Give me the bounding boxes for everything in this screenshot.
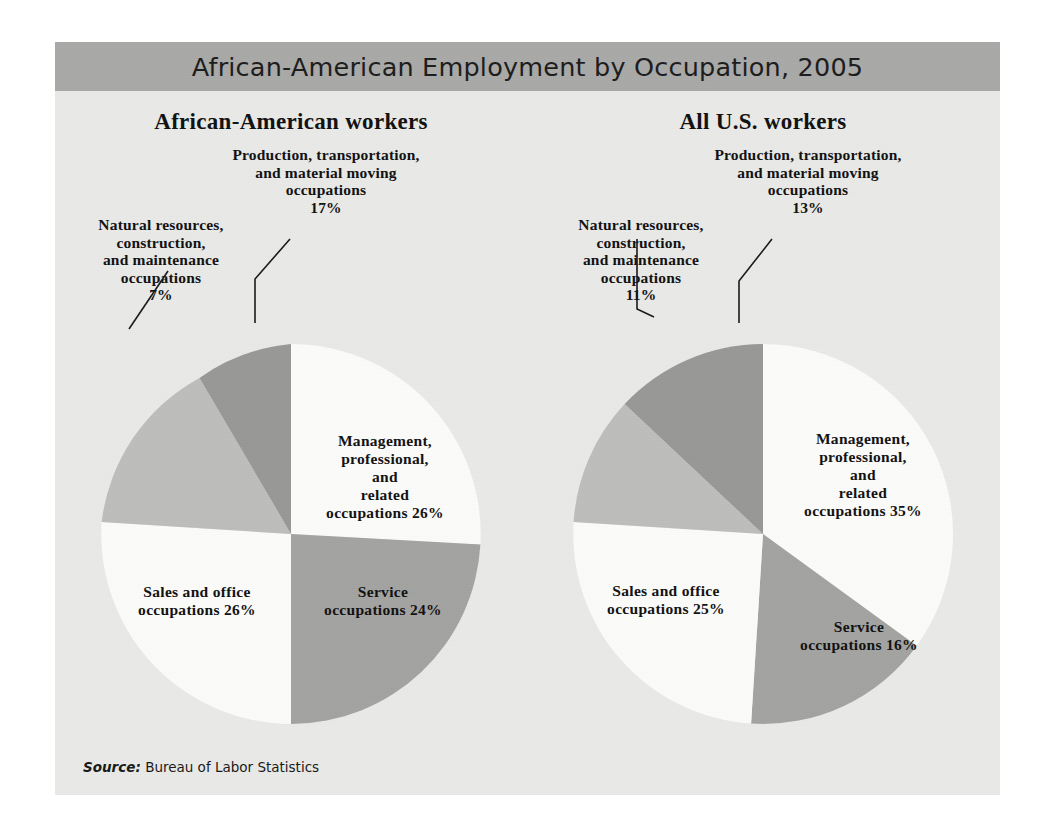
callout-line: occupations [286,181,367,198]
figure-title: African-American Employment by Occupatio… [192,52,864,82]
pie-slice-sales[interactable] [573,522,763,724]
pie-svg-left [91,334,491,734]
callout-line: construction, [116,234,205,251]
slice-label-line: related [361,486,409,503]
callout-line: and material moving [255,164,397,181]
source-note: Source: Bureau of Labor Statistics [83,759,319,775]
slice-label-line: professional, [341,450,429,467]
callout-line: and material moving [737,164,879,181]
slice-label-line: occupations [607,600,689,617]
slice-label-service-right: Service occupations 16% [775,618,943,654]
callout-percent: 7% [61,286,261,304]
figure-panel: African-American Employment by Occupatio… [55,42,1000,795]
slice-label-percent: 26% [412,504,444,521]
callout-line: occupations [601,269,682,286]
chart-all-us-workers: All U.S. workers Production, transportat… [527,91,999,795]
chart-heading-left: African-American workers [55,109,527,135]
callout-line: and maintenance [103,251,219,268]
pie-slice-sales[interactable] [101,522,291,724]
slice-label-service-left: Service occupations 24% [299,583,467,619]
pie-chart-left: Management, professional, and related oc… [91,334,491,734]
slice-label-line: Management, [816,430,910,447]
slice-label-line: occupations [138,601,220,618]
slice-label-line: Sales and office [143,583,250,600]
callout-production-right: Production, transportation, and material… [663,146,953,216]
callout-line: Production, transportation, [232,146,419,163]
slice-label-percent: 25% [693,600,725,617]
pie-chart-right: Management, professional, and related oc… [563,334,963,734]
slice-label-management-left: Management, professional, and related oc… [297,432,473,522]
slice-label-line: Sales and office [612,582,719,599]
slice-label-percent: 26% [224,601,256,618]
slice-label-line: Service [834,618,884,635]
slice-label-percent: 16% [886,636,918,653]
callout-line: Natural resources, [98,216,223,233]
slice-label-sales-left: Sales and office occupations 26% [107,583,287,619]
callout-production-left: Production, transportation, and material… [181,146,471,216]
slice-label-line: and [372,468,398,485]
callout-line: occupations [768,181,849,198]
callout-line: construction, [596,234,685,251]
slice-label-line: Management, [338,432,432,449]
chart-african-american-workers: African-American workers Production, tra… [55,91,527,795]
callout-line: Natural resources, [578,216,703,233]
source-label: Source: [83,759,141,775]
slice-label-line: occupations [804,502,886,519]
callout-line: Production, transportation, [714,146,901,163]
callout-line: occupations [121,269,202,286]
pie-slice-service[interactable] [291,534,480,724]
callout-natural-resources-right: Natural resources, construction, and mai… [541,216,741,304]
slice-label-percent: 35% [890,502,922,519]
figure-title-bar: African-American Employment by Occupatio… [55,42,1000,91]
callout-percent: 17% [181,199,471,217]
slice-label-sales-right: Sales and office occupations 25% [575,582,757,618]
slice-label-line: occupations [324,601,406,618]
chart-heading-right: All U.S. workers [527,109,999,135]
callout-line: and maintenance [583,251,699,268]
slice-label-percent: 24% [410,601,442,618]
slice-label-management-right: Management, professional, and related oc… [775,430,951,520]
slice-label-line: occupations [326,504,408,521]
slice-label-line: professional, [819,448,907,465]
slice-label-line: and [850,466,876,483]
pie-svg-right [563,334,963,734]
slice-label-line: occupations [800,636,882,653]
callout-percent: 11% [541,286,741,304]
slice-label-line: related [839,484,887,501]
callout-percent: 13% [663,199,953,217]
slice-label-line: Service [358,583,408,600]
source-value: Bureau of Labor Statistics [145,759,319,775]
callout-natural-resources-left: Natural resources, construction, and mai… [61,216,261,304]
